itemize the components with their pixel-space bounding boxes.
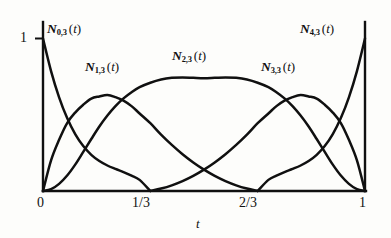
x-axis-tick-label-0: 0 — [37, 196, 44, 210]
curve-label-n0-arg: (t) — [69, 21, 81, 36]
curve-label-n3-arg: (t) — [283, 59, 295, 74]
curve-label-n2-arg: (t) — [194, 48, 206, 63]
x-axis-tick-label-1: 1 — [359, 196, 366, 210]
curve-label-n3: N3,3(t) — [261, 60, 295, 75]
basis-curve-2 — [43, 77, 365, 191]
basis-curve-3 — [150, 95, 365, 191]
bspline-basis-figure: N0,3(t) N1,3(t) N2,3(t) N3,3(t) N4,3(t) … — [0, 0, 391, 238]
curve-label-n4-subscript: 4,3 — [310, 27, 320, 37]
curve-label-n3-subscript: 3,3 — [271, 65, 281, 75]
curve-label-n0-subscript: 0,3 — [57, 27, 67, 37]
curve-label-n1-arg: (t) — [107, 59, 119, 74]
curve-label-n3-symbol: N — [261, 59, 271, 74]
y-axis-tick-label-1: 1 — [20, 31, 27, 45]
curve-label-n1-subscript: 1,3 — [95, 65, 105, 75]
x-axis-tick-label-2-3: 2/3 — [239, 196, 257, 210]
curve-label-n2-symbol: N — [172, 48, 182, 63]
curve-label-n0: N0,3(t) — [47, 22, 81, 37]
curve-label-n0-symbol: N — [47, 21, 57, 36]
curve-label-n2: N2,3(t) — [172, 49, 206, 64]
x-axis-tick-label-1-3: 1/3 — [132, 196, 150, 210]
curve-label-n1-symbol: N — [85, 59, 95, 74]
curve-label-n2-subscript: 2,3 — [182, 54, 192, 64]
curve-label-n4: N4,3(t) — [300, 22, 334, 37]
curve-label-n4-arg: (t) — [322, 21, 334, 36]
x-axis-title: t — [196, 217, 200, 230]
curve-label-n4-symbol: N — [300, 21, 310, 36]
curve-label-n1: N1,3(t) — [85, 60, 119, 75]
basis-curve-1 — [43, 95, 258, 191]
